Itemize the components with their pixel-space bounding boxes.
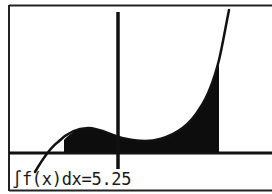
integral-result-text: ∫f(x)dx=5.25 xyxy=(12,169,131,189)
calculator-graph-screen: ∫f(x)dx=5.25 xyxy=(0,0,272,194)
screen-frame xyxy=(9,5,272,191)
graph-canvas xyxy=(0,0,272,194)
